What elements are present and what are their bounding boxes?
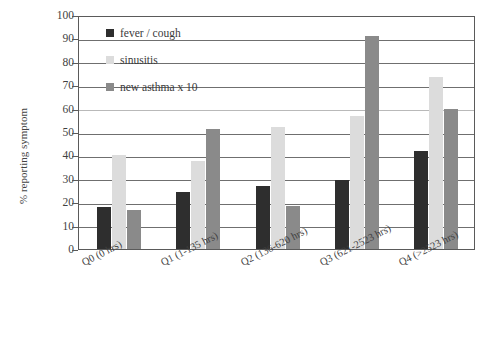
y-tick-label: 70 xyxy=(38,80,74,92)
bar-group xyxy=(414,17,458,249)
y-tick-mark xyxy=(72,250,78,251)
y-tick-label: 60 xyxy=(38,104,74,116)
y-tick-label: 20 xyxy=(38,197,74,209)
y-tick-label: 30 xyxy=(38,174,74,186)
legend: fever / cough sinusitis new asthma x 10 xyxy=(106,26,256,107)
legend-swatch-icon xyxy=(106,83,114,91)
bar xyxy=(127,210,141,249)
y-tick-label: 10 xyxy=(38,221,74,233)
bar xyxy=(444,109,458,249)
bar xyxy=(271,127,285,249)
bar-group xyxy=(256,17,300,249)
bar xyxy=(176,192,190,249)
y-tick-label: 50 xyxy=(38,127,74,139)
bar xyxy=(429,77,443,249)
bar xyxy=(112,155,126,249)
legend-item-fever-cough: fever / cough xyxy=(106,26,256,39)
y-tick-label: 90 xyxy=(38,33,74,45)
bar-chart: % reporting symptom 01020304050607080901… xyxy=(0,0,488,339)
bar-group xyxy=(335,17,379,249)
y-tick-label: 0 xyxy=(38,244,74,256)
legend-label: fever / cough xyxy=(120,27,181,39)
bar xyxy=(414,151,428,249)
legend-item-sinusitis: sinusitis xyxy=(106,53,256,66)
legend-label: sinusitis xyxy=(120,54,158,66)
y-tick-label: 40 xyxy=(38,150,74,162)
bar xyxy=(350,116,364,249)
legend-swatch-icon xyxy=(106,29,114,37)
y-axis-title: % reporting symptom xyxy=(17,71,29,241)
bar xyxy=(365,36,379,249)
legend-swatch-icon xyxy=(106,56,114,64)
legend-item-new-asthma: new asthma x 10 xyxy=(106,80,256,93)
legend-label: new asthma x 10 xyxy=(120,81,198,93)
y-tick-label: 80 xyxy=(38,57,74,69)
y-tick-label: 100 xyxy=(38,10,74,22)
bar xyxy=(335,180,349,249)
bar xyxy=(256,186,270,249)
